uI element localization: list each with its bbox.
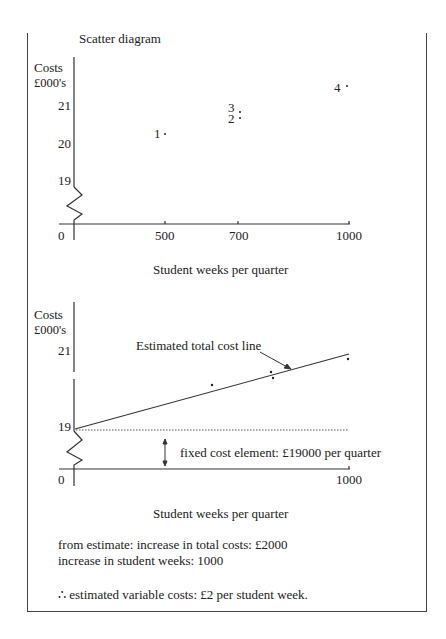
top-ytick-21: 21 [50, 98, 71, 113]
point-label-1: 1 [154, 126, 161, 141]
top-xtick-1000: 1000 [336, 228, 362, 243]
top-xtick-0: 0 [58, 228, 65, 243]
note-line-2: increase in student weeks: 1000 [58, 553, 223, 568]
top-y-label-line1: Costs [34, 60, 63, 75]
total-cost-line [75, 354, 349, 429]
top-ytick-20: 20 [50, 136, 71, 151]
bottom-chart-points [211, 358, 349, 386]
line-label-arrow [260, 352, 291, 369]
top-x-label: Student weeks per quarter [153, 262, 288, 277]
note-line-3: ∴ estimated variable costs: £2 per stude… [58, 587, 308, 602]
total-cost-line-label: Estimated total cost line [136, 338, 261, 353]
bottom-x-label: Student weeks per quarter [153, 506, 288, 521]
bottom-xtick-0: 0 [58, 472, 65, 487]
point-label-4: 4 [334, 80, 341, 95]
bottom-ytick-19: 19 [50, 419, 71, 434]
fixed-cost-label: fixed cost element: £19000 per quarter [180, 445, 381, 460]
top-ytick-19: 19 [50, 173, 71, 188]
bottom-y-label-line2: £000's [34, 323, 66, 338]
top-chart-points [164, 85, 348, 135]
top-xtick-700: 700 [229, 228, 249, 243]
bottom-ytick-21: 21 [50, 343, 71, 358]
top-chart-title: Scatter diagram [79, 31, 161, 46]
fixed-cost-double-arrow [163, 439, 167, 466]
top-chart-axes [59, 57, 350, 240]
note-line-1: from estimate: increase in total costs: … [58, 537, 288, 552]
point-label-3: 3 [228, 102, 235, 113]
bottom-y-label-line1: Costs [34, 307, 63, 322]
top-y-label-line2: £000's [34, 76, 66, 91]
bottom-xtick-1000: 1000 [336, 472, 362, 487]
top-xtick-500: 500 [155, 228, 175, 243]
